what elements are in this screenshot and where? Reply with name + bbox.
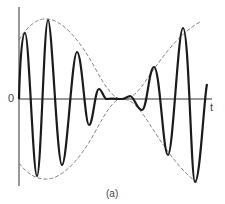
t-axis-label: t	[210, 101, 213, 113]
modulated-signal	[19, 20, 207, 182]
am-waveform-diagram	[0, 0, 225, 204]
figure-caption: (a)	[106, 188, 118, 199]
origin-label: 0	[8, 92, 14, 104]
